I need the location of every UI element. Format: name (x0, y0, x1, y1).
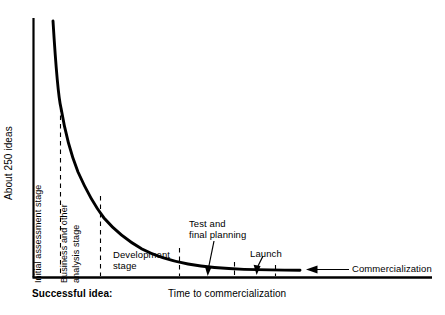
x-axis-title: Time to commercialization (168, 288, 286, 299)
stage-label-business-analysis-line2: analysis stage (71, 225, 82, 283)
stage-label-development-line1: Development (113, 249, 170, 260)
stage-label-initial-assessment: Initial assessment stage (33, 185, 44, 283)
stage-label-business-analysis-line1: Business and other (59, 204, 70, 283)
annotation-launch: Launch (250, 248, 282, 259)
stage-label-development: Developmentstage (113, 249, 170, 271)
stage-label-development-line2: stage (113, 260, 137, 271)
test-planning-arrow-shaft (209, 241, 215, 268)
idea-attrition-curve (53, 21, 300, 270)
y-axis-title: About 250 ideas (3, 126, 14, 200)
annotation-test-final-planning: Test andfinal planning (189, 218, 246, 240)
annotation-test-line2: final planning (189, 229, 246, 240)
successful-idea-note: Successful idea: (32, 288, 113, 299)
idea-attrition-chart: About 250 ideas Initial assessment stage… (0, 0, 445, 315)
annotation-commercialization: Commercialization (352, 263, 432, 274)
test-planning-arrow-head (205, 266, 212, 276)
commercialization-arrow-head (306, 266, 318, 274)
annotation-test-line1: Test and (189, 218, 226, 229)
